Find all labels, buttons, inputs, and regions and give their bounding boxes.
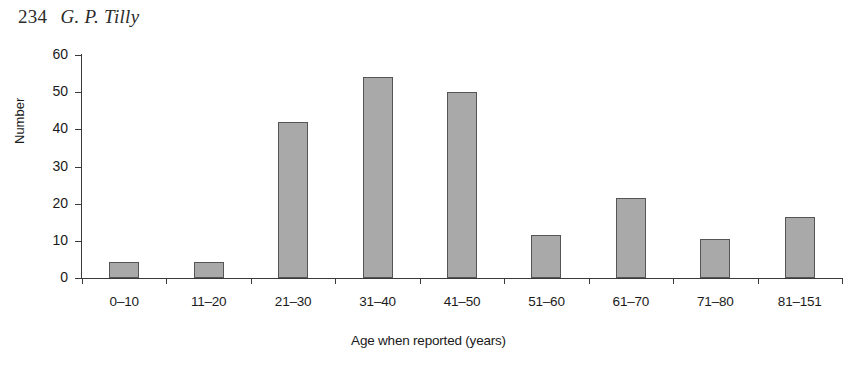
bar-chart-figure: Number Age when reported (years) 0102030… [0,36,857,366]
x-tick-mark [82,278,83,284]
x-tick-mark [758,278,759,284]
x-tick-mark [842,278,843,284]
x-tick-mark [589,278,590,284]
x-tick-mark [504,278,505,284]
x-category-label: 41–50 [417,294,507,309]
y-tick-mark [75,167,82,168]
x-category-label: 21–30 [248,294,338,309]
y-tick-label: 20 [28,195,68,211]
bar [700,239,730,278]
x-axis-line [81,278,842,279]
x-category-label: 31–40 [333,294,423,309]
x-category-label: 0–10 [79,294,169,309]
x-category-label: 51–60 [501,294,591,309]
bar [363,77,393,278]
y-tick-label: 50 [28,83,68,99]
x-tick-mark [420,278,421,284]
page-header: 234G. P. Tilly [18,6,139,28]
x-category-label: 71–80 [670,294,760,309]
y-tick-mark [75,204,82,205]
x-tick-mark [335,278,336,284]
x-tick-mark [673,278,674,284]
bar [616,198,646,278]
x-category-label: 61–70 [586,294,676,309]
y-tick-mark [75,55,82,56]
y-tick-label: 0 [28,269,68,285]
x-category-label: 11–20 [164,294,254,309]
y-tick-label: 60 [28,46,68,62]
y-tick-label: 10 [28,232,68,248]
y-tick-label: 30 [28,158,68,174]
page-folio-number: 234 [18,6,47,27]
bar [447,92,477,278]
x-category-label: 81–151 [755,294,845,309]
y-tick-mark [75,241,82,242]
y-tick-mark [75,129,82,130]
bar [278,122,308,278]
x-tick-mark [251,278,252,284]
y-tick-label: 40 [28,120,68,136]
bar [109,262,139,278]
bar [785,217,815,278]
bar [531,235,561,278]
page-running-author: G. P. Tilly [60,6,139,27]
x-axis-title: Age when reported (years) [0,333,857,348]
bar [194,262,224,278]
x-tick-mark [166,278,167,284]
bar-series [82,55,842,278]
y-tick-mark [75,92,82,93]
y-tick-mark [75,278,82,279]
y-axis-title: Number [12,98,27,144]
